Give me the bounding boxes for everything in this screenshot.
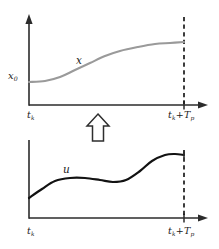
bottom-axis-horizon-label: tk+Tp xyxy=(168,226,194,236)
state-trajectory-curve xyxy=(29,42,184,82)
top-x-axis-arrowhead xyxy=(198,101,208,108)
up-arrow-icon xyxy=(87,114,109,141)
top-y-axis-arrowhead xyxy=(25,14,32,24)
top-axis-start-label: tk xyxy=(27,110,34,120)
trajectory-figure: x0 x tk tk+Tp u tk tk+Tp xyxy=(0,0,219,249)
control-curve-label: u xyxy=(63,164,70,175)
control-input-curve xyxy=(29,154,184,198)
bottom-panel-group xyxy=(29,140,208,223)
top-panel-group xyxy=(25,14,208,110)
bottom-axis-start-label: tk xyxy=(27,226,34,236)
state-curve-label: x xyxy=(76,55,82,66)
bottom-x-axis-arrowhead xyxy=(198,214,208,221)
figure-canvas xyxy=(0,0,219,249)
top-axis-horizon-label: tk+Tp xyxy=(168,110,194,120)
state-initial-value-label: x0 xyxy=(8,71,18,81)
